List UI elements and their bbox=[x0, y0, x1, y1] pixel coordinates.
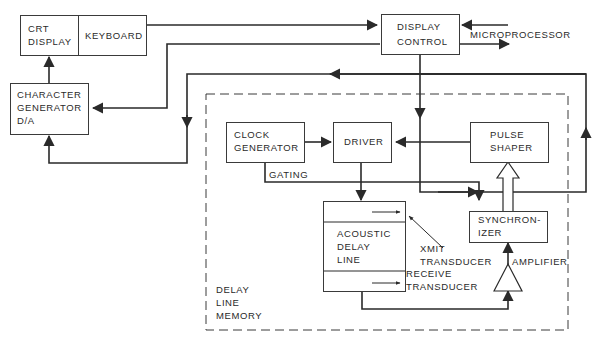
acoustic-label-1: ACOUSTIC bbox=[337, 228, 391, 241]
amplifier-label: AMPLIFIER bbox=[512, 256, 568, 269]
acoustic-label-2: DELAY bbox=[337, 241, 370, 254]
delay-line-memory-label-3: MEMORY bbox=[216, 310, 262, 323]
driver-label: DRIVER bbox=[344, 136, 384, 149]
delay-line-memory-label-2: LINE bbox=[216, 297, 240, 310]
block-diagram: CRT DISPLAY KEYBOARD DISPLAY CONTROL MIC… bbox=[0, 0, 595, 340]
xmit-label-1: XMIT bbox=[420, 243, 445, 256]
receive-label-1: RECEIVE bbox=[406, 268, 452, 281]
synchronizer-label-1: SYNCHRON- bbox=[478, 214, 541, 227]
clock-generator-label-2: GENERATOR bbox=[234, 142, 299, 155]
gating-label: GATING bbox=[269, 169, 308, 182]
pulse-shaper-label-2: SHAPER bbox=[490, 142, 533, 155]
crt-display-label-2: DISPLAY bbox=[28, 36, 72, 49]
microprocessor-label: MICROPROCESSOR bbox=[470, 29, 571, 42]
clock-generator-label-1: CLOCK bbox=[234, 129, 270, 142]
pulse-shaper-label-1: PULSE bbox=[490, 129, 524, 142]
synchronizer-label-2: IZER bbox=[478, 227, 502, 240]
chargen-label-3: D/A bbox=[17, 115, 35, 128]
keyboard-label: KEYBOARD bbox=[85, 30, 143, 43]
acoustic-label-3: LINE bbox=[337, 254, 361, 267]
xmit-label-2: TRANSDUCER bbox=[420, 256, 492, 269]
sync-to-pulse-shaper-arrow bbox=[497, 162, 519, 211]
delay-line-memory-label-1: DELAY bbox=[216, 284, 249, 297]
receive-label-2: TRANSDUCER bbox=[406, 281, 478, 294]
display-control-label-1: DISPLAY bbox=[397, 21, 441, 34]
chargen-label-1: CHARACTER bbox=[17, 89, 82, 102]
crt-display-label-1: CRT bbox=[28, 23, 49, 36]
delay-to-amplifier-line bbox=[362, 291, 508, 309]
chargen-label-2: GENERATOR bbox=[17, 102, 82, 115]
display-control-label-2: CONTROL bbox=[397, 36, 448, 49]
